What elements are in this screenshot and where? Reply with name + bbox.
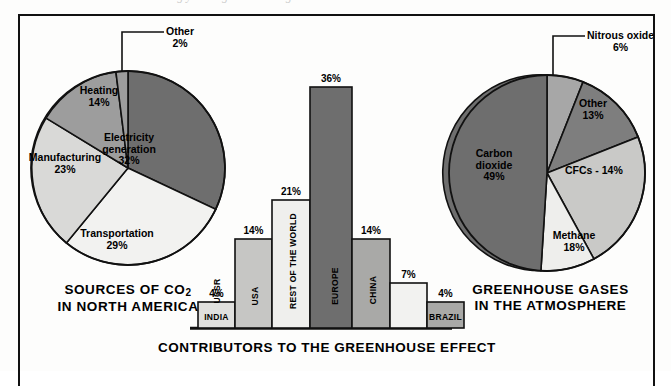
pie-label-manufacturing-line1: Manufacturing <box>15 152 115 164</box>
pie-label-heating: Heating 14% <box>68 85 130 108</box>
bar-value-europe: 14% <box>352 225 390 236</box>
pie-label-other: Other 2% <box>166 26 194 49</box>
caption-greenhouse-gases-line1: GREENHOUSE GASES <box>448 282 653 298</box>
pie-label-manufacturing: Manufacturing 23% <box>15 152 115 175</box>
pie-label-transportation: Transportation 29% <box>57 228 177 251</box>
leader-line-nitrous-oxide <box>553 36 585 76</box>
pie-label-other-gases-line1: Other <box>562 98 624 110</box>
caption-greenhouse-gases-line2: IN THE ATMOSPHERE <box>448 298 653 314</box>
pie-value-methane: 18% <box>534 242 614 254</box>
pie-label-nitrous-oxide-line1: Nitrous oxide <box>587 30 654 42</box>
caption-sources-of-co2-subscript: 2 <box>185 287 191 298</box>
pie-value-transportation: 29% <box>57 240 177 252</box>
bar-label-usa: USA <box>250 278 260 314</box>
main-caption: CONTRIBUTORS TO THE GREENHOUSE EFFECT <box>158 340 488 355</box>
caption-greenhouse-gases: GREENHOUSE GASES IN THE ATMOSPHERE <box>448 282 653 314</box>
bar-value-china: 7% <box>390 269 427 280</box>
pie-value-other-gases: 13% <box>562 110 624 122</box>
pie-label-cfcs: CFCs - 14% <box>565 165 661 177</box>
pie-label-transportation-line1: Transportation <box>57 228 177 240</box>
bar-value-rest-of-the-world: 36% <box>310 73 352 84</box>
pie-label-other-line1: Other <box>166 26 194 38</box>
pie-label-other-gases: Other 13% <box>562 98 624 121</box>
pie-value-other: 2% <box>166 38 194 50</box>
pie-label-carbon-dioxide: Carbon dioxide 49% <box>455 148 533 183</box>
bar-label-europe: EUROPE <box>330 257 340 315</box>
pie-value-nitrous-oxide: 6% <box>587 42 654 54</box>
pie-value-carbon-dioxide: 49% <box>455 171 533 183</box>
bar-label-rest-of-the-world: REST OF THE WORLD <box>288 202 298 320</box>
pie-value-heating: 14% <box>68 97 130 109</box>
pie-label-electricity-generation-line1: Electricity <box>84 132 174 144</box>
bar-label-ussr: USSR <box>212 268 222 314</box>
bar-value-ussr: 14% <box>235 225 272 236</box>
pie-label-methane: Methane 18% <box>534 230 614 253</box>
leader-line-other <box>122 32 164 72</box>
bar-value-usa: 21% <box>272 186 310 197</box>
pie-label-carbon-dioxide-line1: Carbon <box>455 148 533 160</box>
bar-label-china: CHINA <box>368 266 378 314</box>
pie-value-manufacturing: 23% <box>15 164 115 176</box>
pie-label-cfcs-line1: CFCs - 14% <box>565 165 661 177</box>
pie-label-methane-line1: Methane <box>534 230 614 242</box>
caption-sources-of-co2-text: SOURCES OF CO <box>64 282 185 297</box>
bar-china <box>390 283 427 328</box>
pie-label-nitrous-oxide: Nitrous oxide 6% <box>587 30 654 53</box>
pie-label-heating-line1: Heating <box>68 85 130 97</box>
